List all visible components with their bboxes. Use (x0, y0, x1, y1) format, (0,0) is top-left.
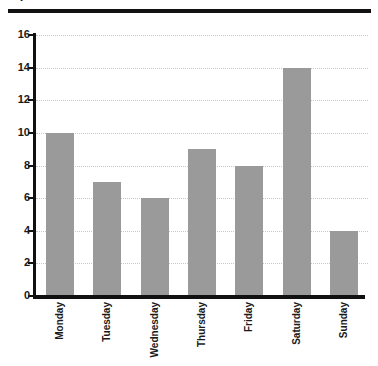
gridline (36, 35, 368, 36)
y-axis-tick-label: 16 (4, 29, 30, 40)
x-axis-tick-label: Saturday (292, 302, 302, 345)
bar[interactable] (93, 182, 121, 296)
x-axis-tick-label: Tuesday (102, 302, 112, 342)
y-axis-tick-label: 4 (4, 225, 30, 236)
y-axis-tick-label: 12 (4, 94, 30, 105)
y-axis-tick-label: 2 (4, 257, 30, 268)
y-axis-tick-label: 14 (4, 62, 30, 73)
x-axis-spine (33, 295, 365, 299)
bar[interactable] (188, 149, 216, 296)
x-axis-tick-label: Thursday (197, 302, 207, 347)
bar[interactable] (330, 231, 358, 296)
bar[interactable] (235, 166, 263, 297)
header-rule (8, 9, 371, 13)
y-axis-tick-label: 0 (4, 290, 30, 301)
y-axis-tick-label: 8 (4, 160, 30, 171)
gridline (36, 68, 368, 69)
gridline (36, 133, 368, 134)
page-title: y (18, 0, 218, 1)
y-axis-tick-label: 6 (4, 192, 30, 203)
bar[interactable] (283, 68, 311, 296)
x-axis-tick-label: Friday (244, 302, 254, 332)
bar-chart: y 0246810121416 MondayTuesdayWednesdayTh… (0, 0, 378, 366)
gridline (36, 100, 368, 101)
x-axis-tick-label: Sunday (339, 302, 349, 338)
x-axis-tick-label: Wednesday (150, 302, 160, 357)
bar[interactable] (46, 133, 74, 296)
bar[interactable] (141, 198, 169, 296)
plot-area (36, 35, 368, 296)
y-axis-tick-label: 10 (4, 127, 30, 138)
x-axis-tick-label: Monday (55, 302, 65, 340)
